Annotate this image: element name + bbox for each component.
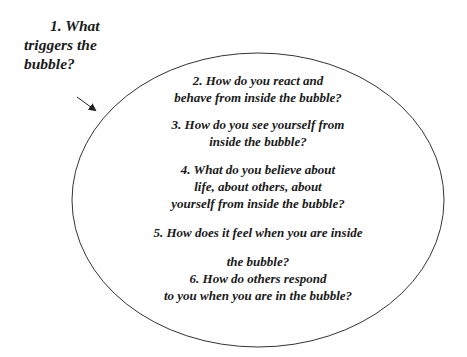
question-3-line-1: 3. How do you see yourself from	[118, 116, 398, 133]
question-3-line-2: inside the bubble?	[118, 133, 398, 150]
question-2: 2. How do you react and behave from insi…	[118, 72, 398, 106]
question-2-line-2: behave from inside the bubble?	[118, 89, 398, 106]
question-4-line-2: life, about others, about	[118, 178, 398, 195]
question-2-line-1: 2. How do you react and	[118, 72, 398, 89]
question-5-line-1: 5. How does it feel when you are inside	[118, 224, 398, 241]
arrow-icon	[77, 97, 95, 110]
question-6-line-1: 6. How do others respond	[118, 270, 398, 287]
trigger-line-2: triggers the	[24, 35, 124, 54]
question-4: 4. What do you believe about life, about…	[118, 161, 398, 212]
question-6-line-2: to you when you are in the bubble?	[118, 287, 398, 304]
question-6: the bubble? 6. How do others respond to …	[118, 253, 398, 304]
question-4-line-1: 4. What do you believe about	[118, 161, 398, 178]
question-5: 5. How does it feel when you are inside	[118, 224, 398, 241]
trigger-line-1: 1. What	[24, 16, 124, 35]
bubble-diagram: 1. What triggers the bubble? 2. How do y…	[0, 0, 467, 357]
trigger-question: 1. What triggers the bubble?	[24, 16, 124, 73]
question-5-line-2: the bubble?	[118, 253, 398, 270]
trigger-line-3: bubble?	[24, 54, 124, 73]
question-3: 3. How do you see yourself from inside t…	[118, 116, 398, 150]
question-4-line-3: yourself from inside the bubble?	[118, 195, 398, 212]
